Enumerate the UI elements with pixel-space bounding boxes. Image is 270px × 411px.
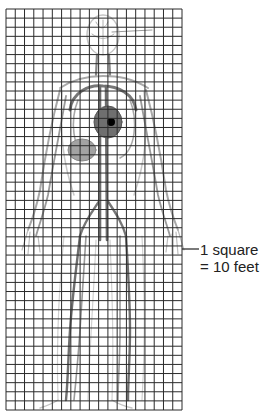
grid xyxy=(6,9,182,410)
liver xyxy=(68,139,96,161)
circulatory-grid-diagram xyxy=(0,0,270,411)
human-figure xyxy=(22,15,184,408)
scale-label-line1: 1 square xyxy=(200,241,258,258)
head-vessels xyxy=(92,20,114,55)
scale-label-line2: = 10 feet xyxy=(200,258,259,275)
